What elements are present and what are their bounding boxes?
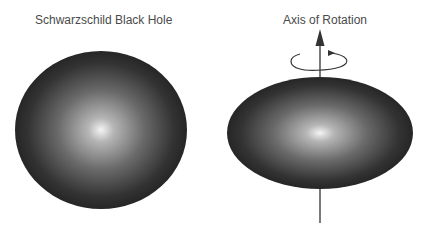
kerr-spheroid [227,77,413,189]
diagram-canvas [0,0,429,228]
schwarzschild-sphere [15,51,187,209]
rotation-circle-icon [291,50,347,70]
